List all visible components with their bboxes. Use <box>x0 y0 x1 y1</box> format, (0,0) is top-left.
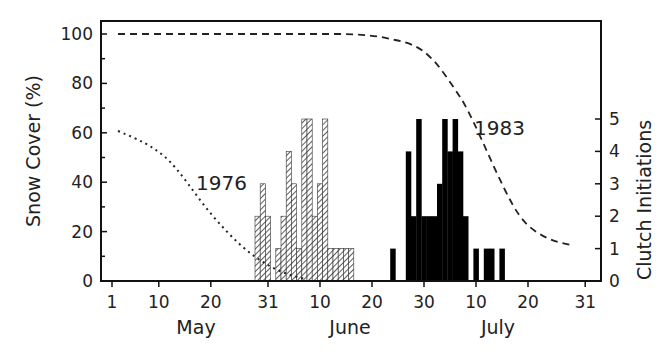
bar-1976 <box>349 249 354 281</box>
bar-1983 <box>427 216 433 281</box>
x-tick-label: 10 <box>309 292 331 312</box>
y2-tick-label: 4 <box>609 141 620 161</box>
x-tick-label: 30 <box>413 292 435 312</box>
x-tick-label: 10 <box>148 292 170 312</box>
y2-tick-label: 3 <box>609 174 620 194</box>
bar-1983 <box>489 249 495 281</box>
bar-1976 <box>317 184 322 281</box>
x-axis: 1102031102030102031 <box>107 281 596 312</box>
bar-1976 <box>286 151 291 281</box>
y2-tick-label: 5 <box>609 109 620 129</box>
month-label-june: June <box>328 316 370 338</box>
x-tick-label: 10 <box>465 292 487 312</box>
bar-1976 <box>291 184 296 281</box>
y-axis-right: 012345 <box>595 109 620 291</box>
bar-1983 <box>406 151 412 281</box>
x-tick-label: 20 <box>517 292 539 312</box>
bar-1976 <box>328 249 333 281</box>
y-tick-label: 20 <box>71 222 93 242</box>
snow-cover-clutch-chart: 020406080100 012345 1102031102030102031 … <box>0 0 671 356</box>
bar-1983 <box>432 216 438 281</box>
bar-1976 <box>312 216 317 281</box>
y2-axis-title: Clutch Initiations <box>633 120 655 280</box>
bar-1976 <box>307 119 312 281</box>
y2-tick-label: 1 <box>609 239 620 259</box>
bar-1983 <box>442 119 448 281</box>
bar-1976 <box>281 216 286 281</box>
y-tick-label: 40 <box>71 172 93 192</box>
bar-1976 <box>265 216 270 281</box>
month-label-july: July <box>480 316 515 338</box>
bar-1983 <box>453 119 459 281</box>
y-axis-title: Snow Cover (%) <box>22 75 44 227</box>
bars-1976 <box>255 119 354 281</box>
bar-1983 <box>499 249 505 281</box>
bar-1983 <box>411 216 417 281</box>
bar-1976 <box>302 119 307 281</box>
bar-1976 <box>343 249 348 281</box>
x-tick-label: 20 <box>200 292 222 312</box>
bar-1983 <box>458 151 464 281</box>
bar-1983 <box>421 216 427 281</box>
x-tick-label: 31 <box>574 292 596 312</box>
plot-frame <box>101 21 601 281</box>
annotation-1983: 1983 <box>474 116 525 140</box>
bar-1983 <box>463 216 469 281</box>
annotation-1976: 1976 <box>196 171 247 195</box>
bar-1976 <box>276 249 281 281</box>
x-tick-label: 31 <box>257 292 279 312</box>
bars-1983 <box>390 119 505 281</box>
y2-tick-label: 0 <box>609 271 620 291</box>
x-tick-label: 1 <box>107 292 118 312</box>
bar-1976 <box>323 119 328 281</box>
y2-tick-label: 2 <box>609 206 620 226</box>
bar-1983 <box>447 151 453 281</box>
bar-1976 <box>255 216 260 281</box>
y-tick-label: 80 <box>71 73 93 93</box>
bar-1983 <box>473 249 479 281</box>
bar-1983 <box>484 249 490 281</box>
bar-1983 <box>416 119 422 281</box>
bar-1976 <box>333 249 338 281</box>
y-tick-label: 0 <box>82 271 93 291</box>
y-tick-label: 60 <box>71 123 93 143</box>
y-tick-label: 100 <box>61 24 93 44</box>
month-label-may: May <box>176 316 215 338</box>
x-tick-label: 20 <box>361 292 383 312</box>
bar-1976 <box>260 184 265 281</box>
bar-1983 <box>390 249 396 281</box>
bar-1983 <box>437 184 443 281</box>
bar-1976 <box>338 249 343 281</box>
